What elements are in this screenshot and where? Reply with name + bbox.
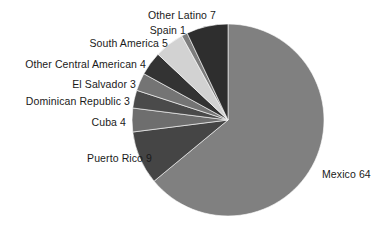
slice-label-cuba: Cuba 4 <box>0 116 126 128</box>
slice-label-puerto-rico: Puerto Rico 9 <box>0 152 152 164</box>
slice-label-other-central-american: Other Central American 4 <box>0 58 146 70</box>
slice-label-mexico: Mexico 64 <box>322 168 371 180</box>
slice-label-other-latino: Other Latino 7 <box>0 9 216 21</box>
pie-chart-figure: Mexico 64 Puerto Rico 9 Cuba 4 Dominican… <box>0 0 389 233</box>
slice-label-south-america: South America 5 <box>0 37 168 49</box>
slice-label-dominican-republic: Dominican Republic 3 <box>0 95 130 107</box>
pie-slices-group <box>132 24 324 216</box>
slice-label-el-salvador: El Salvador 3 <box>0 78 136 90</box>
slice-label-spain: Spain 1 <box>0 24 186 36</box>
